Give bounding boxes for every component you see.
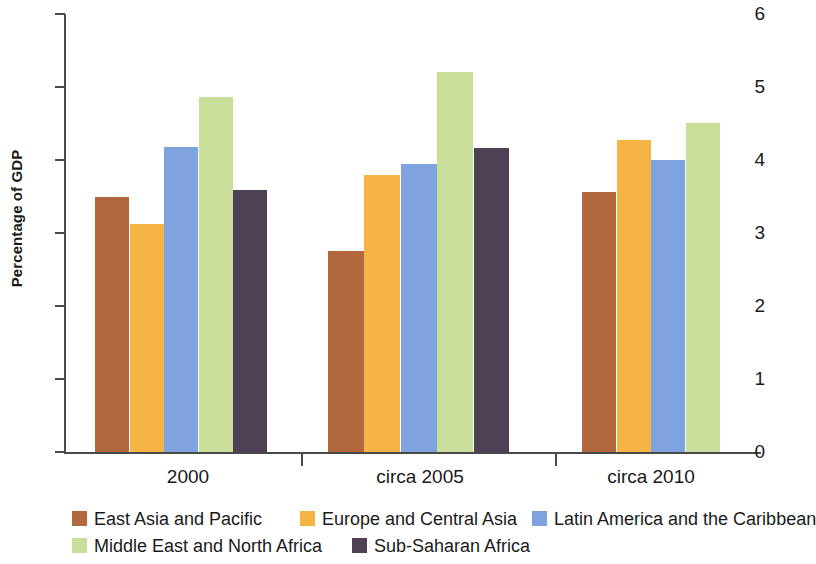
bar xyxy=(328,251,364,452)
bar xyxy=(474,148,510,452)
legend-swatch-icon xyxy=(72,538,87,553)
bar xyxy=(95,197,129,453)
x-axis-separator-tick xyxy=(555,453,557,466)
legend-swatch-icon xyxy=(72,511,87,526)
legend-swatch-icon xyxy=(352,538,367,553)
legend-swatch-icon xyxy=(300,511,315,526)
legend-item[interactable]: East Asia and Pacific xyxy=(72,509,262,529)
bar xyxy=(130,224,164,452)
legend-label: East Asia and Pacific xyxy=(94,509,262,529)
bar xyxy=(617,140,651,452)
bar xyxy=(401,164,437,452)
legend-item[interactable]: Sub-Saharan Africa xyxy=(352,536,530,556)
bar xyxy=(364,175,400,452)
legend-row: East Asia and PacificEurope and Central … xyxy=(72,505,760,532)
legend-label: Latin America and the Caribbean xyxy=(554,509,816,529)
chart-legend: East Asia and PacificEurope and Central … xyxy=(72,505,760,559)
legend-item[interactable]: Latin America and the Caribbean xyxy=(532,509,816,529)
x-axis-line xyxy=(64,452,761,454)
bar xyxy=(651,160,685,452)
legend-label: Europe and Central Asia xyxy=(322,509,517,529)
legend-label: Middle East and North Africa xyxy=(94,536,322,556)
bar xyxy=(233,190,267,452)
legend-item[interactable]: Europe and Central Asia xyxy=(300,509,517,529)
y-axis-title: Percentage of GDP xyxy=(8,119,25,319)
legend-label: Sub-Saharan Africa xyxy=(374,536,530,556)
legend-item[interactable]: Middle East and North Africa xyxy=(72,536,322,556)
bar xyxy=(199,97,233,453)
x-axis-group-label: 2000 xyxy=(108,466,268,488)
bar xyxy=(437,72,473,452)
legend-swatch-icon xyxy=(532,511,547,526)
bar xyxy=(686,123,720,452)
x-axis-group-label: circa 2005 xyxy=(340,466,500,488)
x-axis-group-label: circa 2010 xyxy=(571,466,731,488)
bar xyxy=(164,147,198,452)
legend-row: Middle East and North AfricaSub-Saharan … xyxy=(72,532,760,559)
x-axis-separator-tick xyxy=(301,453,303,466)
plot-area xyxy=(64,14,760,452)
bar xyxy=(582,192,616,452)
